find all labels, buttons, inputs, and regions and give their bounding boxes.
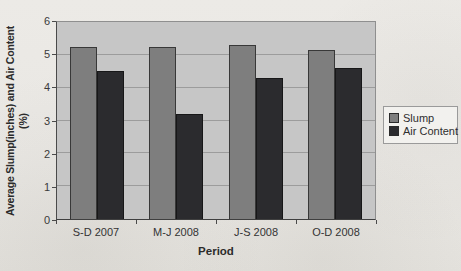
legend-label: Air Content [403,125,458,137]
bar-air-content [176,114,203,219]
bar-group [296,22,376,219]
legend: SlumpAir Content [383,106,458,144]
x-axis-labels: S-D 2007M-J 2008J-S 2008O-D 2008 [56,226,376,238]
bar-slump [308,50,335,219]
legend-item: Slump [389,112,452,124]
y-tick-label: 4 [34,81,50,93]
y-axis-title-line1: Average Slump(inches) and Air Content [4,6,17,236]
legend-swatch-icon [389,126,399,136]
y-tick-label: 0 [34,214,50,226]
bar-groups [57,22,375,219]
x-tick-mark [136,220,137,224]
legend-swatch-icon [389,113,399,123]
y-tick-label: 2 [34,148,50,160]
x-axis-title: Period [56,245,376,257]
legend-item: Air Content [389,125,452,137]
x-category-label: M-J 2008 [136,226,216,238]
plot-area [56,21,376,220]
bar-slump [149,47,176,219]
bar-slump [70,47,97,219]
bar-air-content [97,71,124,219]
scanned-bar-chart: Average Slump(inches) and Air Content (%… [0,0,461,271]
y-axis-title-line2: (%) [17,6,30,236]
bar-group [137,22,217,219]
x-tick-mark [296,220,297,224]
y-tick-label: 5 [34,48,50,60]
y-tick-label: 6 [34,15,50,27]
legend-label: Slump [403,112,434,124]
x-tick-mark [56,220,57,224]
bar-slump [229,45,256,219]
bar-group [216,22,296,219]
x-category-label: J-S 2008 [216,226,296,238]
bar-group [57,22,137,219]
bar-air-content [335,68,362,219]
y-tick-label: 1 [34,181,50,193]
x-category-label: S-D 2007 [56,226,136,238]
bar-air-content [256,78,283,219]
x-tick-mark [216,220,217,224]
x-category-label: O-D 2008 [296,226,376,238]
y-axis-title: Average Slump(inches) and Air Content (%… [4,6,30,236]
y-tick-label: 3 [34,115,50,127]
x-tick-mark [376,220,377,224]
